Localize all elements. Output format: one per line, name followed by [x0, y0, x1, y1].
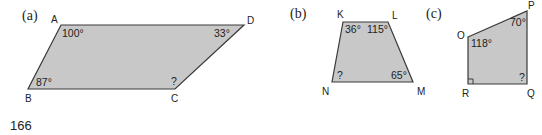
vertex-label-c: C [171, 93, 178, 104]
angle-label-q: ? [519, 71, 525, 83]
angle-label-a: 100° [62, 27, 84, 39]
vertex-label-m: M [417, 86, 425, 97]
angle-label-l: 115° [367, 23, 388, 35]
vertex-label-q: Q [527, 88, 535, 99]
vertex-label-l: L [392, 10, 398, 21]
figure-label-b: (b) [290, 6, 307, 22]
page-number: 166 [10, 118, 32, 133]
figure-b: (b) K L M N 36° 115° 65° ? [290, 6, 425, 97]
figure-label-c: (c) [426, 6, 442, 22]
vertex-label-r: R [462, 88, 469, 99]
angle-label-k: 36° [345, 23, 361, 35]
figure-c: (c) O P Q R 118° 70° ? [426, 0, 535, 99]
figure-label-a: (a) [22, 8, 38, 24]
vertex-label-k: K [337, 9, 344, 20]
parallelogram-abcd [28, 25, 244, 89]
angle-label-d: 33° [214, 27, 230, 39]
quadrilateral-diagram: (a) A B C D 100° 87° ? 33° (b) K L M N 3… [0, 0, 542, 135]
figure-a: (a) A B C D 100° 87° ? 33° [22, 8, 254, 104]
angle-label-p: 70° [510, 16, 526, 28]
vertex-label-d: D [247, 15, 254, 26]
angle-label-c: ? [171, 75, 177, 87]
vertex-label-b: B [25, 93, 32, 104]
vertex-label-a: A [51, 14, 58, 25]
angle-label-b: 87° [36, 76, 52, 88]
angle-label-m: 65° [391, 69, 407, 81]
angle-label-n: ? [337, 69, 343, 81]
vertex-label-n: N [322, 86, 329, 97]
vertex-label-o: O [457, 30, 465, 41]
vertex-label-p: P [528, 0, 535, 11]
angle-label-o: 118° [471, 37, 492, 49]
